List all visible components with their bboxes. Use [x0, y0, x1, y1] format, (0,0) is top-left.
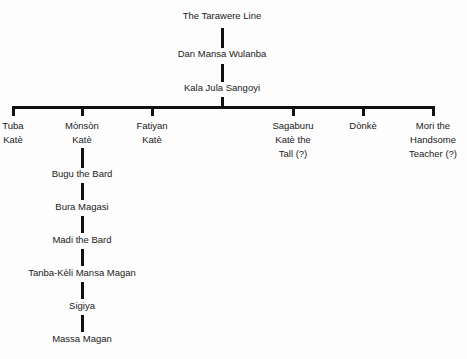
connector-line [221, 64, 224, 82]
connector-line [81, 183, 84, 200]
sibling-bar [12, 106, 433, 109]
node-monson-kate: Mònsòn Katè [65, 119, 99, 147]
connector-line [81, 148, 84, 168]
node-tuba-kate: Tuba Katè [2, 119, 23, 147]
node-fatiyan-kate: Fatiyan Katè [136, 119, 167, 147]
node-massa-magan: Massa Magan [52, 332, 112, 346]
connector-line [432, 106, 435, 116]
connector-line [81, 216, 84, 233]
connector-line [292, 106, 295, 116]
node-root: The Tarawere Line [183, 9, 262, 23]
node-bugu-the-bard: Bugu the Bard [52, 167, 113, 181]
connector-line [81, 282, 84, 299]
node-kala-jula-sangoyi: Kala Jula Sangoyi [184, 81, 260, 95]
node-donke: Dònkè [349, 119, 376, 133]
connector-line [81, 249, 84, 266]
connector-line [362, 106, 365, 116]
node-sigiya: Sigiya [69, 299, 95, 313]
connector-line [221, 28, 224, 48]
node-sagaburu-kate: Sagaburu Katè the Tall (?) [272, 119, 313, 161]
connector-line [81, 315, 84, 332]
connector-line [151, 106, 154, 116]
node-tanba-keli-mansa-magan: Tanba-Kèli Mansa Magan [28, 266, 136, 280]
connector-line [81, 106, 84, 116]
node-bura-magasi: Bura Magasi [55, 200, 108, 214]
node-dan-mansa-wulanba: Dan Mansa Wulanba [178, 47, 267, 61]
node-madi-the-bard: Madi the Bard [52, 233, 111, 247]
connector-line [12, 106, 15, 116]
node-mori: Mori the Handsome Teacher (?) [409, 119, 457, 161]
